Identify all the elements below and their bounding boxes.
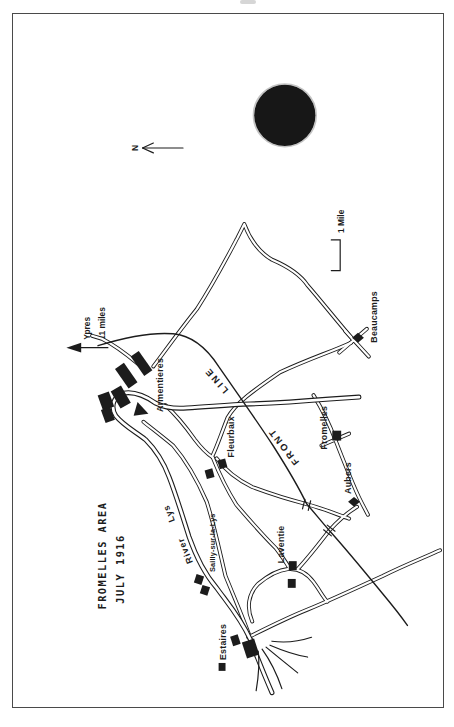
sailly-marker-1 <box>200 585 210 596</box>
laventie-marker-2 <box>288 579 296 588</box>
beaucamps-label: Beaucamps <box>369 291 379 343</box>
map-border-frame: FROMELLES AREA JULY 1916 N 1 Mile Ypres … <box>12 13 444 708</box>
fleurbaix-label: Fleurbaix <box>226 416 236 457</box>
place-laventie: Laventie <box>276 526 297 588</box>
armentieres-label: Armentieres <box>155 358 165 412</box>
place-armentieres: Armentieres <box>98 351 166 423</box>
fleurbaix-marker-1 <box>205 468 215 479</box>
estaires-label: Estaires <box>219 624 229 660</box>
aubers-label: Aubers <box>343 462 353 494</box>
sailly-label: Sailly-sur-la-Lys <box>208 513 217 572</box>
river-label-lys: Lys <box>161 503 177 523</box>
fromelles-marker <box>332 431 341 441</box>
fromelles-map-svg: FROMELLES AREA JULY 1916 N 1 Mile Ypres … <box>13 14 442 706</box>
scale-label: 1 Mile <box>336 209 346 233</box>
front-line-label-line: LINE <box>202 365 231 396</box>
armentieres-town-blocks <box>98 351 153 423</box>
ypres-arrow-icon <box>66 343 81 353</box>
river-delta-branches <box>256 637 311 690</box>
laventie-marker-1 <box>289 561 297 570</box>
map-title-line1: FROMELLES AREA <box>96 502 108 610</box>
north-label: N <box>130 145 140 151</box>
estaires-town-blocks <box>230 634 259 658</box>
front-line: FRONT LINE <box>98 333 407 625</box>
scanned-map-page: { "page": { "type": "scanned book map pa… <box>0 0 454 727</box>
ypres-pointer: Ypres 11 miles <box>66 307 108 353</box>
laventie-label: Laventie <box>276 526 286 564</box>
estaires-marker <box>219 663 226 671</box>
place-aubers: Aubers <box>343 462 360 507</box>
scale-bar: 1 Mile <box>331 209 346 270</box>
place-beaucamps: Beaucamps <box>352 291 379 343</box>
place-fleurbaix: Fleurbaix <box>205 416 237 479</box>
ypres-distance: 11 miles <box>97 307 107 340</box>
punch-hole <box>254 85 315 146</box>
fromelles-label: Fromelles <box>319 406 329 450</box>
scan-artifact <box>240 0 256 4</box>
sailly-marker-2 <box>194 574 204 585</box>
north-arrow-icon: N <box>130 143 183 153</box>
rotated-map-canvas: FROMELLES AREA JULY 1916 N 1 Mile Ypres … <box>13 14 444 706</box>
map-title-line2: JULY 1916 <box>114 534 126 603</box>
place-estaires: Estaires <box>219 624 260 671</box>
